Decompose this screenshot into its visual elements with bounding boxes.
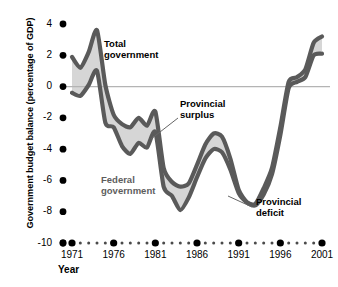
x-axis-minor-tick-dot bbox=[96, 242, 99, 245]
x-axis-major-tick-dot bbox=[277, 239, 284, 246]
x-axis-tick-label: 1991 bbox=[219, 249, 259, 260]
x-axis-minor-tick-dot bbox=[271, 242, 274, 245]
x-axis-minor-tick-dot bbox=[304, 242, 307, 245]
x-axis-minor-tick-dot bbox=[79, 242, 82, 245]
y-axis-tick-label: -6 bbox=[26, 174, 52, 185]
x-axis-minor-tick-dot bbox=[254, 242, 257, 245]
x-axis-minor-tick-dot bbox=[287, 242, 290, 245]
x-axis-tick-label: 1976 bbox=[94, 249, 134, 260]
annotation-total-government: Total government bbox=[104, 38, 158, 60]
y-axis-tick-label: -10 bbox=[26, 237, 52, 248]
x-axis-minor-tick-dot bbox=[121, 242, 124, 245]
x-axis-tick-label: 1986 bbox=[177, 249, 217, 260]
y-axis-tick-label: -8 bbox=[26, 205, 52, 216]
x-axis-major-tick-dot bbox=[110, 239, 117, 246]
annotation-total-government-line2: government bbox=[104, 49, 158, 60]
y-axis-tick-label: 0 bbox=[26, 80, 52, 91]
y-axis-tick-label: -4 bbox=[26, 143, 52, 154]
x-axis-major-tick-dot bbox=[318, 239, 325, 246]
y-axis-tick-dot bbox=[60, 177, 67, 184]
annotation-provincial-surplus: Provincial surplus bbox=[180, 98, 225, 120]
x-axis-tick-label: 1971 bbox=[52, 249, 92, 260]
x-axis-minor-tick-dot bbox=[246, 242, 249, 245]
annotation-provincial-deficit: Provincial deficit bbox=[256, 196, 301, 218]
y-axis-tick-label: 4 bbox=[26, 18, 52, 29]
x-axis-minor-tick-dot bbox=[212, 242, 215, 245]
x-axis-minor-tick-dot bbox=[312, 242, 315, 245]
x-axis-minor-tick-dot bbox=[104, 242, 107, 245]
x-axis-major-tick-dot bbox=[235, 239, 242, 246]
y-axis-tick-label: 2 bbox=[26, 49, 52, 60]
x-axis-minor-tick-dot bbox=[179, 242, 182, 245]
x-axis-tick-label: 2001 bbox=[302, 249, 338, 260]
x-axis-minor-tick-dot bbox=[137, 242, 140, 245]
x-axis-minor-tick-dot bbox=[296, 242, 299, 245]
y-axis-tick-dot bbox=[60, 21, 67, 28]
y-axis-tick-dot bbox=[60, 146, 67, 153]
annotation-provincial-surplus-line1: Provincial bbox=[180, 98, 225, 109]
annotation-provincial-surplus-line2: surplus bbox=[180, 109, 225, 120]
x-axis-major-tick-dot bbox=[68, 239, 75, 246]
annotation-federal-government-line2: government bbox=[101, 185, 155, 196]
x-axis-minor-tick-dot bbox=[171, 242, 174, 245]
x-axis-minor-tick-dot bbox=[204, 242, 207, 245]
annotation-federal-government: Federal government bbox=[101, 174, 155, 196]
annotation-total-government-line1: Total bbox=[104, 38, 158, 49]
x-axis-tick-dots bbox=[60, 239, 326, 246]
x-axis-minor-tick-dot bbox=[262, 242, 265, 245]
y-axis-tick-dot bbox=[60, 208, 67, 215]
x-axis-minor-tick-dot bbox=[129, 242, 132, 245]
y-axis-tick-dot bbox=[60, 114, 67, 121]
x-axis-major-tick-dot bbox=[193, 239, 200, 246]
x-axis-minor-tick-dot bbox=[221, 242, 224, 245]
annotation-federal-government-line1: Federal bbox=[101, 174, 155, 185]
x-axis-minor-tick-dot bbox=[87, 242, 90, 245]
x-axis-minor-tick-dot bbox=[162, 242, 165, 245]
x-axis-tick-label: 1996 bbox=[260, 249, 300, 260]
x-axis-major-tick-dot bbox=[152, 239, 159, 246]
x-axis-minor-tick-dot bbox=[229, 242, 232, 245]
annotation-provincial-deficit-line2: deficit bbox=[256, 207, 301, 218]
y-axis-tick-label: -2 bbox=[26, 111, 52, 122]
annotation-provincial-deficit-line1: Provincial bbox=[256, 196, 301, 207]
x-axis-title: Year bbox=[58, 264, 79, 275]
x-axis-tick-label: 1981 bbox=[135, 249, 175, 260]
x-axis-minor-tick-dot bbox=[146, 242, 149, 245]
y-axis-tick-dot bbox=[60, 52, 67, 59]
y-axis-tick-dot bbox=[60, 83, 67, 90]
y-axis-tick-dots bbox=[60, 21, 67, 247]
x-axis-minor-tick-dot bbox=[187, 242, 190, 245]
x-axis-origin-dot bbox=[60, 240, 67, 247]
